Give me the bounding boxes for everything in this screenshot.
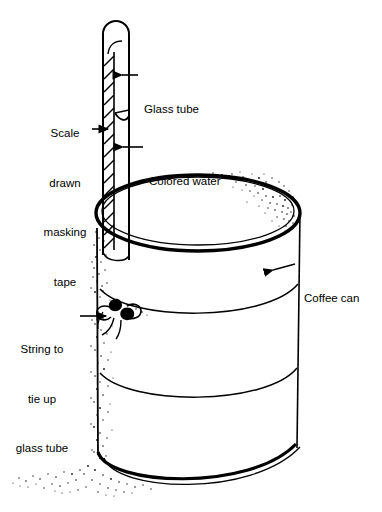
label-colored-water-line-0: Colored water [149, 173, 221, 190]
figure-root: Glass tube Scale drawn masking tape Colo… [0, 0, 382, 512]
water-meniscus-top [115, 110, 129, 113]
tube-bottom-curve [103, 252, 129, 261]
can-band-middle [100, 368, 297, 397]
label-string-line-0: String to [6, 341, 78, 358]
colored-water [115, 110, 129, 120]
label-scale-line-0: Scale [34, 125, 96, 142]
knot-tail-3 [98, 312, 103, 329]
label-colored-water: Colored water [149, 140, 221, 223]
label-string-line-1: tie up [6, 391, 78, 408]
label-string-tie: String to tie up glass tube [6, 308, 78, 490]
knot-tail-2 [116, 320, 121, 339]
can-base-outer [98, 444, 296, 479]
label-string-line-2: glass tube [6, 440, 78, 457]
label-coffee-can-line-0: Coffee can [304, 290, 359, 307]
label-scale-line-2: masking [34, 224, 96, 241]
knot-core [109, 299, 122, 311]
tube-top-inner-arc [108, 41, 122, 54]
can-left-wall [97, 228, 98, 455]
water-meniscus [115, 113, 129, 120]
string-knot [97, 299, 141, 339]
masking-tape-scale [104, 52, 114, 250]
knot-loop-left [97, 306, 111, 320]
label-coffee-can: Coffee can [304, 257, 359, 340]
label-scale-line-1: drawn [34, 175, 96, 192]
can-right-wall [297, 212, 300, 448]
tape-hatch-marks [104, 56, 114, 248]
label-scale-masking-tape: Scale drawn masking tape [34, 92, 96, 323]
label-scale-line-3: tape [34, 274, 96, 291]
label-glass-tube-line-0: Glass tube [144, 101, 199, 118]
label-glass-tube: Glass tube [144, 68, 199, 151]
leader-coffee-can [273, 264, 295, 270]
